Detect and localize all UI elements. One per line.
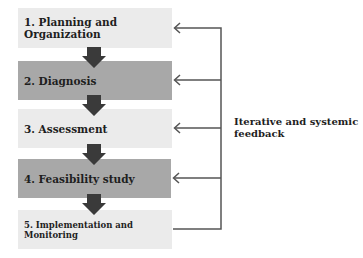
feedback-label: Iterative and systemic feedback — [234, 116, 362, 140]
down-arrow-icon — [82, 47, 106, 68]
down-arrow-icon — [82, 144, 106, 165]
down-arrow-icon — [82, 95, 106, 116]
down-arrow-icon — [82, 194, 106, 215]
